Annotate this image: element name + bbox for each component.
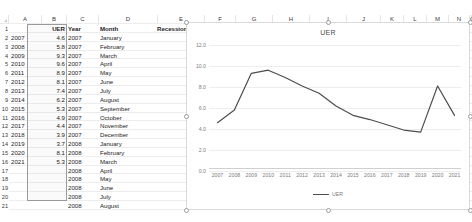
x-axis-tick-label: 2015 (347, 172, 359, 178)
y-axis-tick-label: 2.0 (188, 147, 206, 153)
x-axis-tick-label: 2007 (212, 172, 224, 178)
x-axis-tick-label: 2021 (449, 172, 461, 178)
x-axis-tick-label: 2009 (246, 172, 258, 178)
legend-label-uer: UER (332, 191, 343, 197)
x-axis-tick-label: 2014 (330, 172, 342, 178)
chart-legend[interactable]: UER (187, 191, 469, 197)
cell-b16[interactable]: 5.3 (42, 157, 65, 167)
chart-title: UER (187, 29, 469, 36)
x-axis-tick-label: 2018 (398, 172, 410, 178)
x-axis-tick-label: 2010 (262, 172, 274, 178)
x-axis-tick-label: 2016 (364, 172, 376, 178)
chart-handle-middle-right[interactable] (468, 114, 472, 119)
x-axis-tick-label: 2017 (381, 172, 393, 178)
y-axis-tick-label: 10.0 (188, 63, 206, 69)
y-axis-tick-label: 8.0 (188, 84, 206, 90)
x-axis-tick-label: 2012 (296, 172, 308, 178)
y-axis-tick-label: 0.0 (188, 168, 206, 174)
chart-handle-bottom-right[interactable] (468, 208, 472, 213)
chart-handle-top-left[interactable] (184, 20, 189, 25)
chart-plot-area: 0.02.04.06.08.010.012.0 2007200820092010… (209, 45, 461, 169)
y-axis-tick-label: 4.0 (188, 126, 206, 132)
x-axis-tick-label: 2020 (432, 172, 444, 178)
y-axis-tick-label: 6.0 (188, 105, 206, 111)
y-axis-tick-label: 12.0 (188, 42, 206, 48)
x-axis-tick-label: 2013 (313, 172, 325, 178)
chart-handle-bottom-left[interactable] (184, 208, 189, 213)
uer-line-series (209, 45, 463, 171)
cell-d21[interactable]: August (100, 201, 156, 211)
x-axis-tick-label: 2008 (229, 172, 241, 178)
x-axis-tick-label: 2011 (280, 172, 291, 178)
chart-handle-middle-left[interactable] (184, 114, 189, 119)
chart-handle-top-right[interactable] (468, 20, 472, 25)
spreadsheet-app: ABCDEFGHIJKLMNO 123456789101112131415161… (0, 0, 472, 222)
cell-c21[interactable]: 2008 (68, 201, 98, 211)
cell-a16[interactable]: 2021 (11, 157, 39, 167)
embedded-chart-object[interactable]: UER 0.02.04.06.08.010.012.0 200720082009… (186, 22, 470, 210)
row-header-21[interactable]: 21 (0, 201, 9, 211)
chart-handle-top-center[interactable] (326, 20, 331, 25)
x-axis-tick-label: 2019 (415, 172, 427, 178)
chart-handle-bottom-center[interactable] (326, 208, 331, 213)
legend-line-swatch-uer (313, 194, 329, 195)
